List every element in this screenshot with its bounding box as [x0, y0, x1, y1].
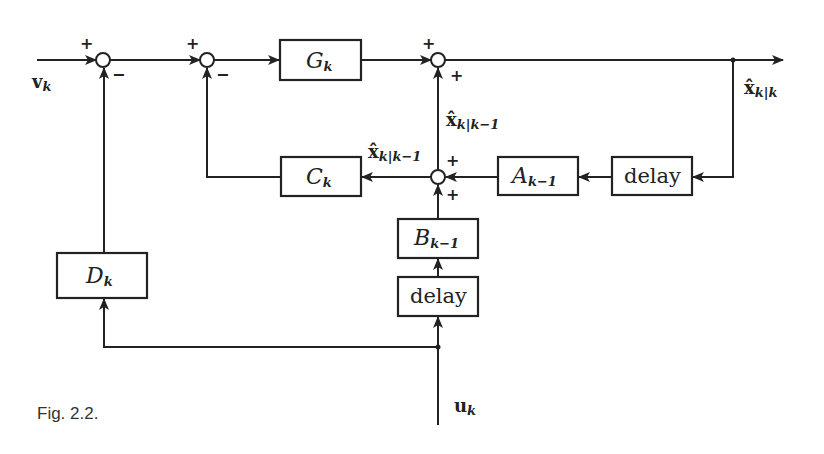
svg-text:vk: vk: [31, 71, 51, 94]
svg-text:x̂k|k−1: x̂k|k−1: [368, 141, 421, 164]
delay-bottom-label: delay: [410, 284, 467, 308]
v-label: v: [31, 71, 43, 92]
sum-junction-4: [431, 170, 445, 184]
D-block: Dk: [57, 253, 147, 298]
C-label: C: [306, 164, 323, 189]
sum-junction-2: [200, 53, 214, 67]
sum2-plus-sign: +: [186, 34, 199, 53]
figure-caption: Fig. 2.2.: [37, 404, 98, 423]
sum-junction-3: [431, 53, 445, 67]
x-kk-subscript: k|k: [755, 85, 778, 100]
sum2-minus-sign: −: [216, 65, 229, 84]
C-subscript: k: [323, 175, 332, 190]
sum-junction-1: [96, 53, 110, 67]
C-to-sum2-wire: [207, 68, 281, 177]
G-subscript: k: [324, 59, 333, 74]
C-block: Ck: [281, 157, 361, 196]
sum3-plus-sign-top: +: [422, 34, 435, 53]
svg-text:x̂k|k−1: x̂k|k−1: [446, 109, 499, 132]
x-pred-left-subscript: k|k−1: [379, 149, 422, 164]
sum3-plus-sign-bottom: +: [450, 66, 463, 85]
A-block: Ak−1: [498, 157, 578, 195]
B-block: Bk−1: [398, 219, 478, 258]
svg-text:uk: uk: [454, 395, 476, 418]
D-subscript: k: [104, 274, 113, 289]
B-subscript: k−1: [430, 236, 459, 251]
u-subscript: k: [467, 403, 476, 418]
x-pred-vertical-label: x̂: [446, 109, 457, 130]
svg-text:x̂k|k: x̂k|k: [744, 77, 777, 100]
output-to-delay-wire: [693, 60, 733, 177]
A-label: A: [510, 163, 528, 188]
delay-block-bottom: delay: [398, 277, 478, 316]
u-to-D-wire: [104, 299, 438, 347]
delay-block-top: delay: [612, 157, 692, 195]
G-label: G: [306, 48, 324, 73]
x-pred-left-label: x̂: [368, 141, 379, 162]
sum4-plus-sign-right: +: [446, 151, 459, 170]
B-label: B: [413, 225, 430, 250]
delay-top-label: delay: [624, 164, 681, 188]
u-label: u: [454, 395, 467, 416]
G-block: Gk: [280, 40, 361, 80]
D-label: D: [85, 263, 104, 288]
sum4-plus-sign-bottom: +: [446, 185, 459, 204]
sum1-plus-sign: +: [80, 34, 93, 53]
x-kk-label: x̂: [744, 77, 755, 98]
v-subscript: k: [42, 79, 51, 94]
sum1-minus-sign: −: [112, 65, 125, 84]
A-subscript: k−1: [528, 174, 557, 189]
kalman-filter-block-diagram: + − + − + + + + Gk vk x̂k|k delay Ak−1 x…: [0, 0, 824, 454]
x-pred-vertical-subscript: k|k−1: [457, 117, 500, 132]
